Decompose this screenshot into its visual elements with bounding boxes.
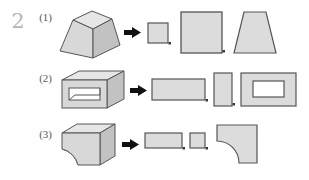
row-3-arrow-icon bbox=[122, 139, 139, 150]
worksheet-figure: 2 (1) (2) (3) bbox=[0, 0, 309, 180]
row-3-front-view bbox=[217, 125, 257, 163]
row-3-side-view bbox=[190, 133, 205, 148]
row-3-graphics bbox=[0, 0, 309, 180]
solid-block-quarter-cut bbox=[62, 124, 115, 165]
block-front-face bbox=[62, 133, 100, 165]
row-3-separator-dot-1 bbox=[183, 147, 186, 150]
row-3-separator-dot-2 bbox=[206, 147, 209, 150]
row-3-top-view bbox=[145, 133, 182, 148]
